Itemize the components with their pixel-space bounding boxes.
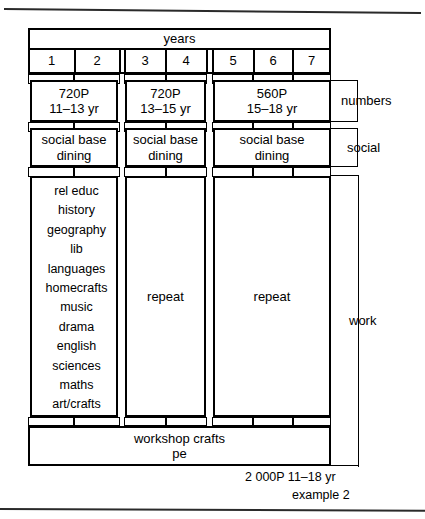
social-box-group-3: social base dining [213,128,331,167]
social-line2-group-1: dining [57,148,92,163]
subject-item: homecrafts [46,279,108,298]
shared-facilities-box: workshop crafts pe [28,426,331,466]
subject-item: drama [59,318,94,337]
page-rule-bottom [0,508,425,512]
diagram-canvas: years 1 2 3 4 5 6 7 720P 11–13 yr 720P 1… [0,0,425,519]
social-line1-group-1: social base [41,132,106,147]
connector-tick-g2-bottom [165,417,167,426]
subject-item: music [60,298,93,317]
numbers-box-group-1: 720P 11–13 yr [30,80,118,122]
band-label-numbers: numbers [341,93,392,108]
numbers-age-group-3: 15–18 yr [247,101,298,116]
year-cell-6: 6 [254,49,292,73]
year-cell-1: 1 [29,49,74,73]
work-box-group-3: repeat [213,176,331,417]
numbers-box-group-3: 560P 15–18 yr [213,80,331,122]
social-box-group-2: social base dining [125,128,206,167]
page-rule-top [4,8,421,14]
band-label-social: social [347,140,380,155]
connector-tick-g3-bottom-a [252,417,254,426]
work-repeat-label-group-3: repeat [254,289,291,304]
social-line1-group-2: social base [133,132,198,147]
social-line1-group-3: social base [239,132,304,147]
years-header-label: years [28,29,331,49]
year-separator-5 [206,49,208,73]
numbers-age-group-1: 11–13 yr [49,101,99,116]
social-line2-group-2: dining [148,148,183,163]
subject-item: english [57,337,97,356]
subject-item: history [58,201,95,220]
year-cell-7: 7 [293,49,330,73]
subject-item: lib [70,240,83,259]
subject-item: geography [47,221,106,240]
caption-line-1: 2 000P 11–18 yr [245,470,336,484]
subject-item: rel educ [54,182,98,201]
year-cell-2: 2 [75,49,119,73]
numbers-capacity-group-3: 560P [257,86,287,101]
shared-line1: workshop crafts [134,431,225,446]
subject-item: languages [48,260,106,279]
subject-item: sciences [52,357,101,376]
year-cell-4: 4 [166,49,206,73]
band-label-work: work [349,313,376,328]
connector-tick-g1-bottom [73,417,75,426]
year-separator-2 [119,49,121,73]
connector-tick-g3-bottom-b [292,417,294,426]
caption-line-2: example 2 [292,488,350,502]
shared-line2: pe [172,446,186,461]
connector-strip-g3-bottom [212,417,331,426]
bracket-work-bottom-cap [331,465,359,466]
year-cell-5: 5 [213,49,253,73]
subject-list-group-1: rel educ history geography lib languages… [34,182,119,415]
work-repeat-label-group-2: repeat [147,289,184,304]
numbers-capacity-group-1: 720P [59,86,89,101]
social-line2-group-3: dining [255,148,290,163]
subject-item: maths [59,376,93,395]
year-cell-3: 3 [125,49,165,73]
numbers-capacity-group-2: 720P [150,86,180,101]
subject-item: art/crafts [52,395,101,414]
numbers-box-group-2: 720P 13–15 yr [125,80,206,122]
social-box-group-1: social base dining [30,128,118,167]
numbers-age-group-2: 13–15 yr [140,101,191,116]
work-box-group-2: repeat [125,176,206,417]
bracket-work-top-cap [331,175,359,176]
